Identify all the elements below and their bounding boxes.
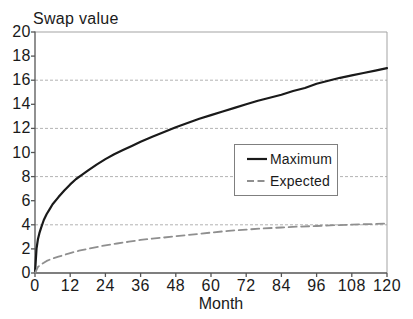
x-axis-title: Month (191, 295, 251, 313)
plot-area (0, 0, 413, 319)
legend-item-expected: Expected (235, 173, 337, 189)
legend: Maximum Expected (234, 144, 338, 196)
swap-value-chart: Swap value 02468101214161820012243648607… (0, 0, 413, 319)
legend-label-maximum: Maximum (270, 151, 332, 167)
maximum-line-sample (246, 156, 268, 162)
legend-item-maximum: Maximum (235, 151, 337, 167)
expected-line-sample (246, 178, 268, 184)
legend-label-expected: Expected (270, 173, 330, 189)
